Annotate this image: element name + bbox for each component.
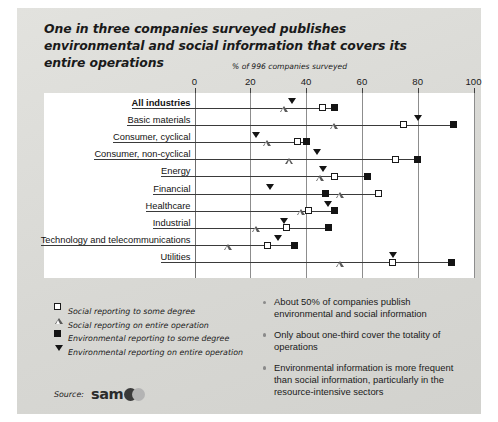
chart-legend: Social reporting to some degreeSocial re… — [54, 300, 239, 354]
marker-open-triangle — [252, 226, 260, 232]
row-connector-line — [195, 142, 307, 143]
marker-open-triangle — [336, 261, 344, 267]
x-tick-label: 100 — [465, 76, 481, 87]
gridline — [250, 93, 251, 278]
marker-open-square — [375, 190, 382, 197]
row-connector-line — [195, 108, 335, 109]
category-underline — [146, 211, 195, 212]
legend-filled-square-icon — [54, 330, 61, 337]
marker-open-square — [392, 156, 399, 163]
category-underline — [127, 125, 194, 126]
bullet-dot-icon — [263, 301, 266, 304]
marker-filled-triangle-down — [280, 218, 288, 224]
legend-item: Social reporting on entire operation — [54, 314, 239, 328]
marker-filled-triangle-down — [288, 98, 296, 104]
marker-open-triangle — [316, 175, 324, 181]
category-underline — [161, 262, 195, 263]
row-connector-line — [195, 228, 329, 229]
x-tick-label: 60 — [357, 76, 368, 87]
marker-filled-triangle-down — [319, 166, 327, 172]
gridline — [362, 93, 363, 278]
marker-open-triangle — [263, 140, 271, 146]
sam-logo-text: sam — [91, 386, 123, 402]
sam-logo-icon — [124, 388, 146, 401]
legend-label: Environmental reporting on entire operat… — [68, 348, 243, 357]
row-connector-line — [195, 176, 368, 177]
legend-open-triangle-icon — [55, 318, 63, 324]
marker-filled-triangle-down — [266, 184, 274, 190]
bullet-text: About 50% of companies publish environme… — [274, 296, 427, 319]
legend-item: Environmental reporting on entire operat… — [54, 341, 239, 355]
chart-figure: One in three companies surveyed publishe… — [0, 0, 498, 422]
row-connector-line — [195, 262, 452, 263]
marker-open-square — [283, 224, 290, 231]
marker-open-triangle — [297, 209, 305, 215]
marker-filled-square — [450, 121, 457, 128]
category-underline — [153, 194, 194, 195]
marker-filled-square — [448, 259, 455, 266]
marker-open-square — [264, 242, 271, 249]
marker-filled-square — [291, 242, 298, 249]
bullet-text: Only about one-third cover the totality … — [274, 329, 440, 352]
category-underline — [94, 159, 194, 160]
category-underline — [161, 176, 194, 177]
marker-open-triangle — [224, 244, 232, 250]
x-tick-label: 20 — [245, 76, 256, 87]
marker-open-triangle — [285, 158, 293, 164]
gridline — [306, 93, 307, 278]
legend-item: Social reporting to some degree — [54, 300, 239, 314]
marker-filled-square — [414, 156, 421, 163]
bullet-item: Environmental information is more freque… — [262, 362, 470, 399]
marker-open-square — [400, 121, 407, 128]
marker-filled-triangle-down — [274, 235, 282, 241]
marker-filled-triangle-down — [252, 132, 260, 138]
category-underline — [41, 245, 195, 246]
source-row: Source: sam — [54, 386, 146, 402]
marker-filled-square — [331, 104, 338, 111]
x-tick-label: 0 — [192, 76, 197, 87]
marker-open-square — [331, 173, 338, 180]
marker-filled-square — [331, 207, 338, 214]
legend-filled-triangle-down-icon — [55, 345, 63, 351]
bullet-dot-icon — [263, 366, 266, 369]
bullet-item: Only about one-third cover the totality … — [262, 329, 470, 354]
marker-filled-triangle-down — [389, 252, 397, 258]
marker-filled-square — [364, 173, 371, 180]
x-tick-label: 40 — [301, 76, 312, 87]
row-connector-line — [195, 159, 418, 160]
marker-filled-square — [322, 190, 329, 197]
marker-open-triangle — [280, 106, 288, 112]
marker-open-triangle — [330, 123, 338, 129]
gridline — [474, 93, 475, 278]
marker-open-square — [294, 138, 301, 145]
insight-bullets: About 50% of companies publish environme… — [262, 296, 470, 407]
marker-filled-triangle-down — [313, 149, 321, 155]
marker-filled-square — [325, 224, 332, 231]
marker-open-square — [319, 104, 326, 111]
marker-open-square — [389, 259, 396, 266]
bullet-dot-icon — [263, 333, 266, 336]
category-underline — [132, 108, 195, 109]
legend-open-square-icon — [54, 303, 61, 310]
row-connector-line — [195, 194, 379, 195]
category-underline — [153, 228, 195, 229]
bullet-text: Environmental information is more freque… — [274, 362, 453, 398]
gridline — [195, 93, 196, 278]
axis-caption: % of 996 companies surveyed — [232, 62, 347, 71]
category-underline — [113, 142, 195, 143]
row-connector-line — [195, 245, 295, 246]
marker-filled-triangle-down — [324, 201, 332, 207]
x-tick-label: 80 — [412, 76, 423, 87]
marker-filled-square — [303, 138, 310, 145]
source-label: Source: — [54, 390, 84, 399]
marker-open-square — [305, 207, 312, 214]
row-connector-line — [195, 125, 454, 126]
marker-open-triangle — [336, 192, 344, 198]
legend-item: Environmental reporting to some degree — [54, 327, 239, 341]
bullet-item: About 50% of companies publish environme… — [262, 296, 470, 321]
marker-filled-triangle-down — [414, 115, 422, 121]
row-connector-line — [195, 211, 335, 212]
gridline — [418, 93, 419, 278]
